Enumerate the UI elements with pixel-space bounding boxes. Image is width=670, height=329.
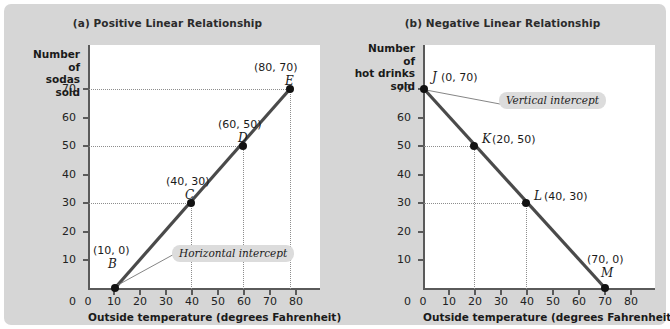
chart-a-guide-v-60 [243, 146, 244, 289]
chart-a-point-B-letter: B [108, 258, 117, 270]
chart-a-point-B [111, 284, 119, 292]
chart-a-ytick-60 [83, 117, 89, 119]
chart-b-ylabel-30: 30 [383, 197, 411, 208]
chart-a-xlabel-60: 60 [232, 296, 256, 307]
chart-b-point-L-coord: (40, 30) [544, 191, 588, 202]
chart-a-point-C-letter: C [185, 189, 194, 201]
chart-b-y-axis [423, 45, 425, 288]
chart-b-ylabel-20: 20 [383, 226, 411, 237]
chart-b-title: (b) Negative Linear Relationship [335, 17, 670, 29]
chart-a-xlabel-40: 40 [180, 296, 204, 307]
chart-a-ylabel-0: 0 [48, 296, 76, 307]
chart-b-guide-h-30 [424, 203, 526, 204]
chart-a-point-D-letter: D [238, 132, 248, 144]
chart-b-guide-v-20 [474, 146, 475, 289]
chart-b-point-K-letter: K [482, 133, 491, 145]
chart-b-ylabel-line-1: Number of [353, 42, 415, 67]
chart-b-ylabel-40: 40 [383, 169, 411, 180]
chart-a-ytick-40 [83, 174, 89, 176]
chart-b-ylabel-70: 70 [383, 83, 411, 94]
chart-a-guide-h-30 [89, 203, 186, 204]
chart-b-point-K [470, 142, 478, 150]
chart-b-ytick-40 [418, 174, 424, 176]
chart-b-annotation-vertical-intercept: Vertical intercept [499, 92, 606, 109]
chart-a-guide-h-50 [89, 146, 238, 147]
chart-a-xlabel-20: 20 [128, 296, 152, 307]
chart-b-xlabel-30: 30 [489, 296, 513, 307]
chart-b-xlabel-80: 80 [619, 296, 643, 307]
chart-b-xlabel-60: 60 [567, 296, 591, 307]
chart-b-x-axis [423, 288, 655, 290]
chart-b-xlabel-20: 20 [463, 296, 487, 307]
chart-a-point-E-coord: (80, 70) [254, 62, 298, 73]
chart-a-ylabel-20: 20 [48, 226, 76, 237]
chart-a-xlabel-30: 30 [154, 296, 178, 307]
chart-a-ylabel-40: 40 [48, 169, 76, 180]
chart-b-ylabel-60: 60 [383, 112, 411, 123]
chart-a-xlabel-title: Outside temperature (degrees Fahrenheit) [88, 311, 320, 323]
chart-a-point-B-coord: (10, 0) [93, 245, 130, 256]
chart-a-ylabel-60: 60 [48, 112, 76, 123]
chart-a-ylabel-line-1: Number of [18, 48, 80, 73]
chart-b-ytick-20 [418, 231, 424, 233]
chart-a-ylabel-30: 30 [48, 197, 76, 208]
chart-a-xlabel-50: 50 [206, 296, 230, 307]
chart-b-point-M [601, 284, 609, 292]
chart-a-ylabel-50: 50 [48, 140, 76, 151]
chart-b-ylabel-line-2: hot drinks [353, 67, 415, 80]
chart-a-ytick-20 [83, 231, 89, 233]
chart-a-guide-h-70 [89, 89, 290, 90]
chart-a-xlabel-70: 70 [258, 296, 282, 307]
chart-a-point-D-coord: (60, 50) [218, 119, 262, 130]
chart-a-point-E-letter: E [285, 75, 294, 87]
chart-a-xlabel-10: 10 [102, 296, 126, 307]
chart-b-ylabel-0: 0 [383, 296, 411, 307]
chart-b-point-M-coord: (70, 0) [587, 254, 624, 265]
chart-a-y-axis [88, 45, 90, 288]
chart-a-title: (a) Positive Linear Relationship [0, 17, 335, 29]
chart-b-xlabel-title: Outside temperature (degrees Fahrenheit) [423, 311, 655, 323]
chart-b-xlabel-0: 0 [411, 296, 435, 307]
chart-b-point-K-coord: (20, 50) [492, 134, 536, 145]
chart-a-ytick-10 [83, 259, 89, 261]
chart-b-ytick-10 [418, 259, 424, 261]
chart-b-ylabel-50: 50 [383, 140, 411, 151]
chart-b-guide-h-50 [424, 146, 474, 147]
chart-b-point-J-coord: (0, 70) [441, 72, 478, 83]
chart-a-ylabel-10: 10 [48, 254, 76, 265]
chart-a-xlabel-0: 0 [76, 296, 100, 307]
chart-a-ylabel-70: 70 [48, 83, 76, 94]
chart-b-point-L [522, 199, 530, 207]
chart-b-guide-v-40 [526, 203, 527, 289]
chart-b-point-L-letter: L [534, 190, 542, 202]
chart-b-ytick-60 [418, 117, 424, 119]
chart-b-point-M-letter: M [601, 267, 613, 279]
chart-a-annotation-horizontal-intercept: Horizontal intercept [172, 245, 294, 262]
chart-b-xlabel-10: 10 [437, 296, 461, 307]
chart-b-xlabel-70: 70 [593, 296, 617, 307]
chart-a-point-C-coord: (40, 30) [166, 176, 210, 187]
chart-a-xlabel-80: 80 [284, 296, 308, 307]
figure-root: (a) Positive Linear Relationship Number … [0, 0, 670, 329]
chart-b-xlabel-50: 50 [541, 296, 565, 307]
chart-b-point-J-letter: J [432, 71, 437, 83]
chart-b-ylabel-10: 10 [383, 254, 411, 265]
chart-a-x-axis [88, 288, 320, 290]
chart-b-point-J [420, 85, 428, 93]
chart-b-xlabel-40: 40 [515, 296, 539, 307]
